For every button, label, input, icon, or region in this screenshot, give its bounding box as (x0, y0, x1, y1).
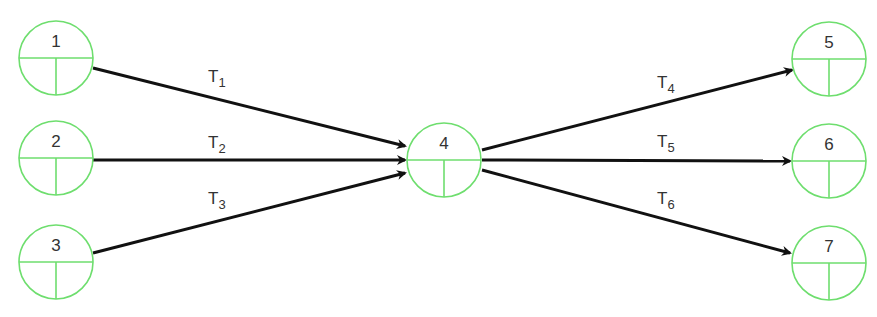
arrow-line (482, 70, 792, 150)
node-1: 1 (19, 21, 93, 95)
edge-t1: T1 (93, 67, 405, 146)
edge-label: T3 (208, 189, 226, 212)
node-number: 6 (824, 135, 833, 154)
edge-t3: T3 (93, 173, 405, 253)
edge-label: T6 (657, 189, 675, 212)
edge-t6: T6 (482, 170, 790, 253)
node-number: 3 (51, 236, 60, 255)
edge-label: T4 (657, 73, 675, 96)
node-number: 5 (824, 33, 833, 52)
edge-label: T5 (657, 132, 675, 155)
node-number: 4 (439, 134, 448, 153)
node-5: 5 (792, 22, 866, 96)
node-number: 7 (824, 237, 833, 256)
arrow-line (93, 68, 405, 146)
node-7: 7 (792, 226, 866, 300)
node-2: 2 (19, 121, 93, 195)
edge-t4: T4 (482, 70, 792, 150)
edge-label: T1 (208, 67, 226, 90)
node-number: 2 (51, 132, 60, 151)
node-4: 4 (407, 123, 481, 197)
edge-t5: T5 (482, 132, 790, 161)
arrow-line (93, 173, 405, 253)
arrow-line (482, 170, 790, 253)
edge-label: T2 (208, 133, 226, 156)
node-6: 6 (792, 124, 866, 198)
edge-t2: T2 (93, 133, 405, 160)
network-diagram: T1T2T3T4T5T6 1234567 (0, 0, 877, 317)
arrow-line (482, 160, 790, 161)
node-3: 3 (19, 225, 93, 299)
node-number: 1 (51, 32, 60, 51)
